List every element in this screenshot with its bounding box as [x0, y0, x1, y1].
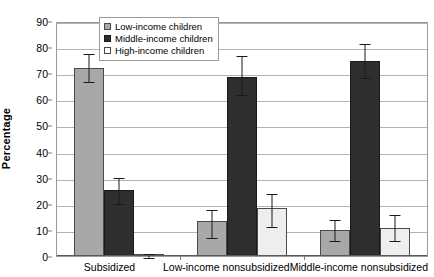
x-axis-label: Middle-income nonsubsidized: [290, 259, 428, 277]
bar[interactable]: [227, 77, 257, 256]
error-bar: [335, 220, 336, 241]
error-bar-cap-upper: [360, 44, 371, 45]
y-axis-tick-labels: 9080706050403020100: [16, 22, 52, 257]
error-bar-cap-upper: [330, 220, 341, 221]
error-bar-cap-lower: [83, 82, 94, 83]
x-axis-category-labels: SubsidizedLow-income nonsubsidizedMiddle…: [56, 259, 428, 277]
y-tick-label: 40: [36, 147, 48, 159]
error-bar-cap-lower: [236, 95, 247, 96]
legend-swatch-icon: [104, 23, 111, 30]
legend-item[interactable]: High-income children: [104, 45, 213, 56]
y-tick-label: 90: [36, 16, 48, 28]
y-tick-label: 30: [36, 173, 48, 185]
y-tick-mark: [48, 22, 52, 23]
y-tick-mark: [48, 74, 52, 75]
bar-slot: [350, 23, 380, 256]
bars-row: [304, 23, 427, 256]
legend-item[interactable]: Middle-income children: [104, 33, 213, 44]
error-bar: [211, 210, 212, 239]
error-bar-cap-upper: [206, 210, 217, 211]
y-tick-mark: [48, 257, 52, 258]
y-tick-label: 50: [36, 120, 48, 132]
y-tick-mark: [48, 204, 52, 205]
error-bar-cap-upper: [390, 215, 401, 216]
error-bar: [118, 178, 119, 204]
bar-slot: [320, 23, 350, 256]
error-bar-cap-lower: [330, 241, 341, 242]
legend-swatch-icon: [104, 35, 111, 42]
bar[interactable]: [74, 68, 104, 256]
y-tick-mark: [48, 152, 52, 153]
y-tick-label: 60: [36, 94, 48, 106]
bar-slot: [380, 23, 410, 256]
bar-group: [304, 23, 427, 256]
bar-slot: [257, 23, 287, 256]
y-tick-label: 10: [36, 225, 48, 237]
x-axis-label: Subsidized: [56, 259, 163, 277]
error-bar-cap-upper: [113, 178, 124, 179]
error-bar-cap-lower: [390, 241, 401, 242]
legend: Low-income childrenMiddle-income childre…: [99, 17, 219, 61]
bar-slot: [227, 23, 257, 256]
error-bar-cap-upper: [266, 194, 277, 195]
y-tick-mark: [48, 126, 52, 127]
error-bar: [241, 56, 242, 95]
error-bar: [271, 194, 272, 227]
legend-swatch-icon: [104, 47, 111, 54]
legend-item[interactable]: Low-income children: [104, 21, 213, 32]
error-bar: [365, 44, 366, 78]
y-tick-mark: [48, 230, 52, 231]
y-tick-label: 70: [36, 68, 48, 80]
y-tick-mark: [48, 100, 52, 101]
y-tick-mark: [48, 48, 52, 49]
error-bar-cap-upper: [83, 54, 94, 55]
bar-chart: Percentage 9080706050403020100 Subsidize…: [0, 0, 434, 277]
x-axis-baseline: [57, 255, 427, 256]
y-tick-mark: [48, 178, 52, 179]
y-tick-label: 80: [36, 42, 48, 54]
error-bar-cap-lower: [360, 78, 371, 79]
x-axis-label: Low-income nonsubsidized: [163, 259, 290, 277]
legend-item-label: Low-income children: [115, 21, 202, 32]
error-bar-cap-lower: [266, 227, 277, 228]
legend-item-label: Middle-income children: [115, 33, 213, 44]
bar[interactable]: [350, 61, 380, 256]
y-axis-title: Percentage: [0, 0, 16, 277]
error-bar: [395, 215, 396, 241]
error-bar: [88, 54, 89, 81]
error-bar-cap-lower: [206, 238, 217, 239]
y-tick-label: 20: [36, 199, 48, 211]
error-bar-cap-upper: [236, 56, 247, 57]
error-bar-cap-lower: [113, 204, 124, 205]
legend-item-label: High-income children: [115, 45, 204, 56]
